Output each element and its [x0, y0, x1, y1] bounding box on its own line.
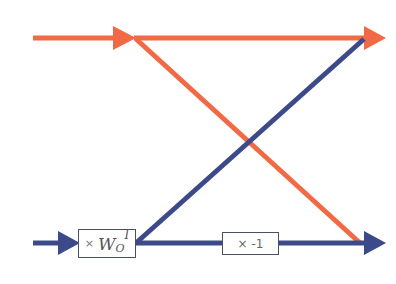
bottom-input-arrowhead — [58, 231, 80, 255]
twiddle-superscript: I — [124, 228, 129, 242]
top-output-arrowhead — [364, 26, 386, 50]
twiddle-subscript: O — [115, 242, 124, 255]
negate-box: × -1 — [222, 232, 279, 255]
bottom-output-arrowhead — [364, 231, 386, 255]
twiddle-symbol: W — [98, 234, 115, 254]
twiddle-factor-box: × W O I — [78, 229, 136, 258]
multiply-sign: × — [85, 237, 94, 250]
butterfly-diagram — [0, 0, 396, 284]
top-input-arrowhead — [113, 26, 136, 50]
negate-label: × -1 — [238, 237, 264, 251]
